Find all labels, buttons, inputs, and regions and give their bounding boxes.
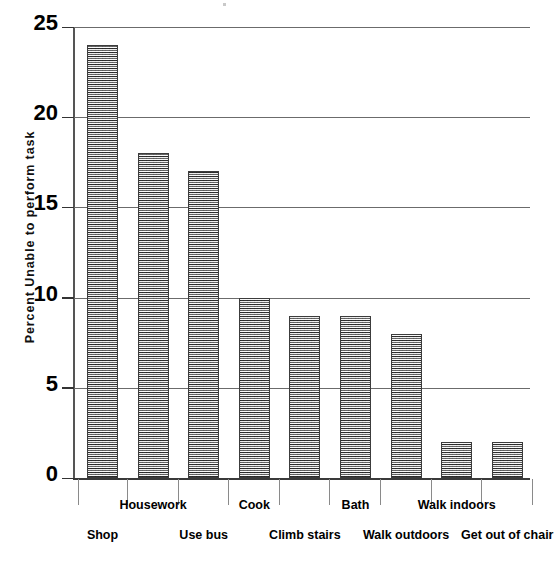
x-axis-category-label: Shop	[87, 528, 118, 542]
y-axis-tick-label: 25	[10, 12, 58, 34]
x-axis-tick	[78, 479, 79, 505]
y-axis-tick	[62, 207, 74, 209]
x-axis-category-label: Bath	[342, 498, 370, 512]
y-axis-tick-label: 15	[10, 192, 58, 214]
x-axis-category-label: Cook	[239, 498, 270, 512]
x-axis-category-label: Walk indoors	[418, 498, 496, 512]
bar	[239, 298, 270, 478]
y-axis-tick-label: 5	[10, 373, 58, 395]
x-axis-category-label: Get out of chair	[461, 528, 553, 542]
y-axis-tick-label: 0	[10, 463, 58, 485]
y-axis-tick-label: 20	[10, 102, 58, 124]
x-axis-category-label: Walk outdoors	[363, 528, 449, 542]
gridline	[73, 117, 530, 118]
x-axis-tick	[532, 479, 533, 505]
bar	[87, 45, 118, 478]
bar	[188, 171, 219, 478]
x-axis-tick	[380, 479, 381, 505]
plot-area	[73, 27, 530, 478]
y-axis-tick	[62, 27, 74, 29]
y-axis-tick-label: 10	[10, 283, 58, 305]
gridline	[73, 27, 530, 28]
y-axis-tick	[62, 297, 74, 299]
x-axis-category-label: Housework	[119, 498, 186, 512]
y-axis-tick	[62, 387, 74, 389]
x-axis-tick	[329, 479, 330, 505]
bar	[492, 442, 523, 478]
bar	[441, 442, 472, 478]
y-axis-title: Percent Unable to perform task	[23, 97, 37, 377]
bar	[340, 316, 371, 478]
x-axis-tick	[228, 479, 229, 505]
bar	[138, 153, 169, 478]
bar	[289, 316, 320, 478]
x-axis-baseline	[73, 478, 530, 480]
bar-chart: Percent Unable to perform task 051015202…	[0, 0, 559, 578]
x-axis-tick	[279, 479, 280, 505]
y-axis-tick	[62, 478, 74, 480]
scan-artifact	[223, 3, 226, 6]
y-axis-tick	[62, 117, 74, 119]
x-axis-category-label: Climb stairs	[269, 528, 341, 542]
x-axis-category-label: Use bus	[179, 528, 228, 542]
bar	[391, 334, 422, 478]
